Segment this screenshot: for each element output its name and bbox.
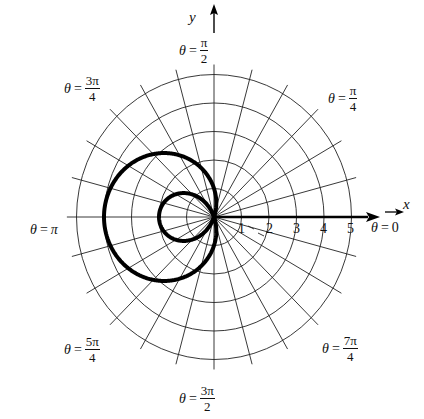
radial-tick-2: 2 xyxy=(266,221,273,237)
grid-ray-300 xyxy=(214,217,288,349)
grid-ray-45 xyxy=(214,109,318,217)
angle-label-pi: θ=π xyxy=(30,223,58,237)
radial-tick-4: 4 xyxy=(320,221,327,237)
angle-label-pi-over-4: θ= π4 xyxy=(328,84,357,113)
grid-ray-240 xyxy=(140,217,214,349)
angle-label-7pi-over-4: θ= 7π4 xyxy=(322,334,358,363)
x-axis-label: x xyxy=(403,196,410,213)
y-axis-label: y xyxy=(189,9,196,26)
radial-tick-1: 1 xyxy=(238,221,245,237)
grid-ray-30 xyxy=(214,141,341,217)
grid-ray-60 xyxy=(214,85,288,217)
radial-tick-5: 5 xyxy=(347,221,354,237)
angle-label-0: θ=0 xyxy=(371,221,399,235)
grid-ray-15 xyxy=(214,178,356,217)
angle-label-5pi-over-4: θ= 5π4 xyxy=(64,335,100,364)
grid-ray-345 xyxy=(214,217,356,256)
grid-ray-285 xyxy=(214,217,252,364)
grid-ray-195 xyxy=(72,217,214,256)
angle-label-pi-over-2: θ= π2 xyxy=(179,36,208,65)
grid-ray-75 xyxy=(214,70,252,217)
angle-label-3pi-over-4: θ= 3π4 xyxy=(64,74,100,103)
grid-ray-120 xyxy=(140,85,214,217)
grid-ray-165 xyxy=(72,178,214,217)
angle-label-3pi-over-2: θ= 3π2 xyxy=(179,384,215,413)
radial-tick-3: 3 xyxy=(293,221,300,237)
tick-dash-1 xyxy=(258,233,264,236)
